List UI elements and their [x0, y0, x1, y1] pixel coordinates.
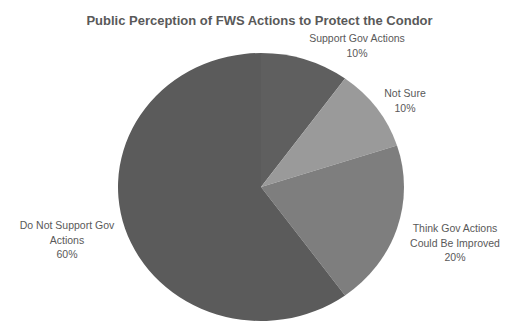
label-percent: 10%: [309, 46, 405, 61]
label-could-be-improved: Think Gov Actions Could Be Improved 20%: [410, 221, 500, 265]
label-text: Do Not Support Gov: [20, 218, 115, 233]
label-text: Actions: [20, 233, 115, 248]
label-text: Support Gov Actions: [309, 31, 405, 46]
label-text: Not Sure: [384, 86, 425, 101]
label-text: Think Gov Actions: [410, 221, 500, 236]
label-support-gov-actions: Support Gov Actions 10%: [309, 31, 405, 60]
pie-chart: [0, 0, 519, 335]
label-not-sure: Not Sure 10%: [384, 86, 425, 115]
label-text: Could Be Improved: [410, 236, 500, 251]
label-percent: 20%: [410, 250, 500, 265]
label-percent: 10%: [384, 101, 425, 116]
label-do-not-support: Do Not Support Gov Actions 60%: [20, 218, 115, 262]
label-percent: 60%: [20, 247, 115, 262]
